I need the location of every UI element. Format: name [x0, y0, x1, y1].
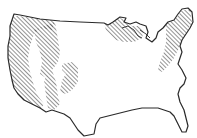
hatched-regions — [8, 10, 192, 110]
region-northern-rockies — [34, 22, 60, 78]
us-map — [0, 0, 197, 138]
region-colorado-rockies — [60, 62, 78, 94]
